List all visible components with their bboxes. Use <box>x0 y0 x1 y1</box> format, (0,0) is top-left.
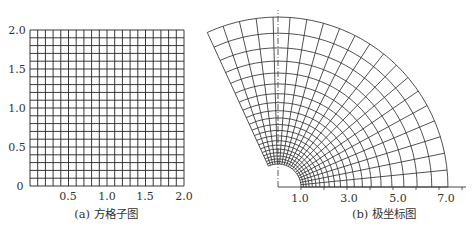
polar-ray <box>299 121 434 178</box>
polar-ring <box>231 73 392 187</box>
polar-ring <box>207 17 448 187</box>
y-tick-1-5: 1.5 <box>8 63 26 76</box>
y-tick-2-0: 2.0 <box>8 24 26 37</box>
polar-ring <box>214 33 432 187</box>
polar-ring <box>239 94 371 187</box>
polar-ring <box>220 48 417 187</box>
figure: 0 0.5 1.0 1.5 2.0 0.5 1.0 1.5 2.0 (a) 方格… <box>0 0 472 233</box>
y-tick-1-0: 1.0 <box>8 102 26 115</box>
caption-b: (b) 极坐标图 <box>352 207 416 221</box>
x-tick-0-5: 0.5 <box>59 190 77 203</box>
polar-ray <box>239 21 272 164</box>
polar-ray <box>301 170 447 185</box>
polar-ring <box>268 164 301 187</box>
y-tick-0-5: 0.5 <box>8 141 26 154</box>
polar-ray <box>284 23 323 165</box>
polar-ring <box>226 61 404 187</box>
polar-ray <box>223 26 271 165</box>
x-tick-2-0: 2.0 <box>175 190 193 203</box>
polar-ray <box>297 91 418 174</box>
x-tick-1-0: 1.0 <box>98 190 116 203</box>
polar-x-tick-5: 5.0 <box>389 192 407 205</box>
square-grid-panel <box>30 30 184 186</box>
caption-a: (a) 方格子图 <box>74 207 138 221</box>
polar-x-tick-7: 7.0 <box>437 192 455 205</box>
polar-ring <box>235 84 381 187</box>
polar-x-tick-3: 3.0 <box>340 192 358 205</box>
y-tick-0: 0 <box>17 180 24 193</box>
polar-x-tick-1: 1.0 <box>291 192 309 205</box>
polar-grid-panel <box>207 10 466 190</box>
x-tick-1-5: 1.5 <box>136 190 154 203</box>
polar-ray <box>292 54 383 169</box>
polar-ray <box>207 32 268 166</box>
polar-ray <box>273 17 277 164</box>
